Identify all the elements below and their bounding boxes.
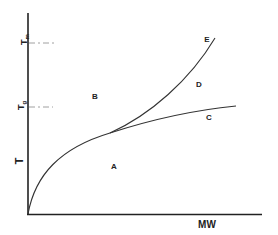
phase-diagram: Tm Tg T MW A B C D E <box>0 0 278 235</box>
region-d-label: D <box>196 80 202 89</box>
region-c-label: C <box>206 113 212 122</box>
tg-label: Tg <box>16 101 27 111</box>
region-b-label: B <box>92 92 98 101</box>
curve-c-branch <box>110 106 236 133</box>
svg-text:Tm: Tm <box>19 34 30 45</box>
x-axis-label: MW <box>198 219 216 230</box>
y-axis-label: T <box>13 157 25 164</box>
svg-text:T: T <box>13 157 25 164</box>
curve-common <box>28 133 110 214</box>
svg-text:Tg: Tg <box>16 101 27 111</box>
region-e-label: E <box>204 35 210 44</box>
tm-label: Tm <box>19 34 30 45</box>
region-a-label: A <box>111 162 117 171</box>
